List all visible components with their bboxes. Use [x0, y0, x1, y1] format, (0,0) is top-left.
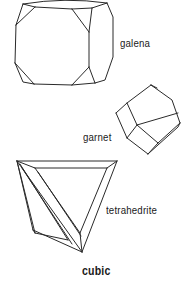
- galena-crystal-drawing: [15, 0, 113, 85]
- garnet-crystal-drawing: [116, 85, 180, 154]
- tetrahedrite-crystal-drawing: [17, 161, 117, 252]
- crystal-system-diagram: [0, 0, 189, 294]
- crystal-system-title: cubic: [82, 265, 110, 277]
- garnet-label: garnet: [83, 132, 112, 143]
- tetrahedrite-label: tetrahedrite: [106, 205, 157, 216]
- galena-label: galena: [120, 38, 150, 49]
